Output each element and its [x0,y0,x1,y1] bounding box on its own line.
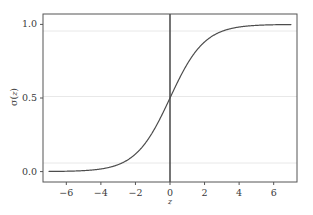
x-tick-label: 6 [271,188,277,198]
y-axis-label-close-paren: ) [8,88,19,92]
plot-canvas [0,0,313,215]
y-tick-label: 0.0 [0,167,37,177]
x-tick-label: −4 [94,188,108,198]
y-tick-label: 1.0 [0,20,37,30]
y-axis-label-open-paren: ( [8,96,19,100]
x-tick-label: −2 [128,188,142,198]
x-tick-label: 2 [202,188,208,198]
y-axis-label-variable: z [10,92,19,96]
y-axis-label-sigma: σ [8,100,19,107]
x-tick-label: 4 [236,188,242,198]
sigmoid-chart-figure: 0.00.51.0 −6−4−20246 z σ(z) [0,0,313,215]
x-tick-label: −6 [59,188,73,198]
x-axis-label: z [168,198,172,206]
y-axis-label: σ(z) [9,88,19,106]
